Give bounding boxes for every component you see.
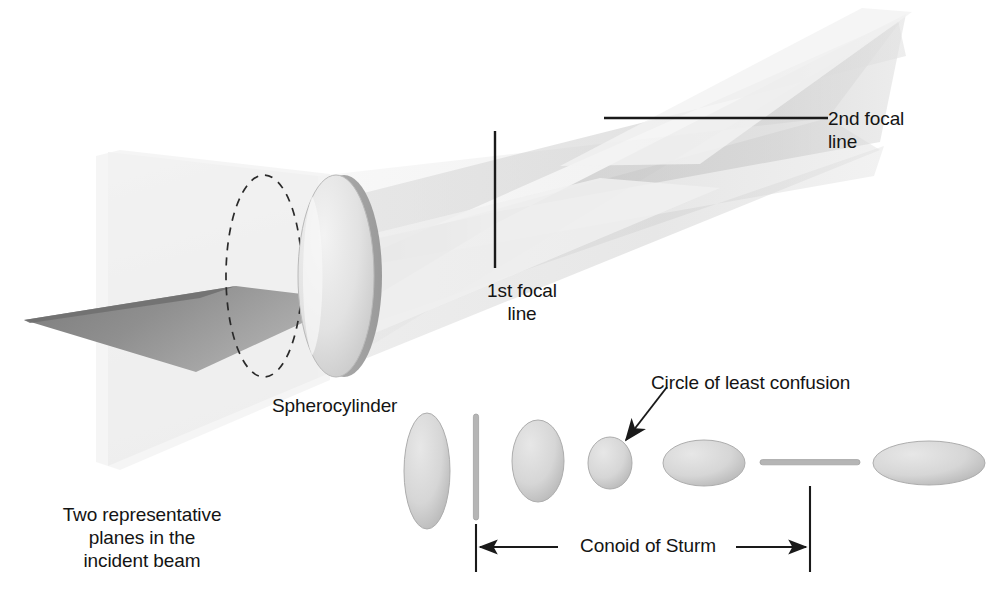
optics-diagram: 2nd focal line 1st focal line Spherocyli… <box>0 0 1000 600</box>
cross-section-horizontal-ellipse-narrow <box>663 440 745 486</box>
label-1st-focal-line: 1st focal line <box>452 279 592 325</box>
cross-section-vertical-ellipse-wide <box>404 413 450 529</box>
label-conoid-of-sturm: Conoid of Sturm <box>560 534 736 557</box>
circle-of-least-confusion-arrow <box>626 387 667 440</box>
cross-section-horizontal-ellipse-wide <box>873 441 985 485</box>
beam-scene-3d <box>24 8 912 470</box>
cross-section-vertical-ellipse-narrow <box>512 420 564 502</box>
label-spherocylinder: Spherocylinder <box>272 394 452 417</box>
label-2nd-focal-line: 2nd focal line <box>828 107 978 153</box>
cross-section-circle-of-least-confusion <box>588 437 632 489</box>
label-circle-of-least-confusion: Circle of least confusion <box>651 371 951 394</box>
label-two-representative-planes: Two representative planes in the inciden… <box>6 503 278 572</box>
cross-section-second-focal-line <box>760 460 860 465</box>
cross-section-first-focal-line <box>473 414 478 520</box>
conoid-cross-sections <box>404 413 985 529</box>
